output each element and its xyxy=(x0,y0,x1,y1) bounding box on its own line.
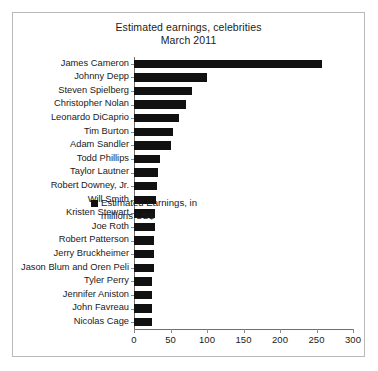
bar xyxy=(134,250,154,258)
bar xyxy=(134,168,158,176)
bar-row: Taylor Lautner xyxy=(134,166,353,180)
category-label: Jennifer Aniston xyxy=(63,288,129,302)
y-axis-tick xyxy=(131,77,134,78)
bar-row: Christopher Nolan xyxy=(134,98,353,112)
bar-row: Jerry Bruckheimer xyxy=(134,247,353,261)
y-axis-tick xyxy=(131,105,134,106)
bar xyxy=(134,264,154,272)
bar-row: Joe Roth xyxy=(134,220,353,234)
category-label: Adam Sandler xyxy=(70,138,129,152)
chart-figure-frame: Estimated earnings, celebrities March 20… xyxy=(12,12,365,357)
bar-row: Tim Burton xyxy=(134,125,353,139)
y-axis-tick xyxy=(131,145,134,146)
legend-swatch-icon xyxy=(91,200,98,207)
y-axis-tick xyxy=(131,281,134,282)
bar-row: Tyler Perry xyxy=(134,275,353,289)
y-axis-tick xyxy=(131,241,134,242)
bar xyxy=(134,100,186,108)
bar xyxy=(134,304,152,312)
x-axis-tick xyxy=(280,329,281,333)
bar xyxy=(134,128,173,136)
category-label: Jason Blum and Oren Peli xyxy=(21,261,129,275)
category-label: Johnny Depp xyxy=(74,70,129,84)
bar xyxy=(134,73,207,81)
x-axis-tick xyxy=(171,329,172,333)
category-label: Jerry Bruckheimer xyxy=(54,247,129,261)
chart-title-line-1: Estimated earnings, celebrities xyxy=(13,21,364,34)
category-label: Tim Burton xyxy=(84,125,129,139)
y-axis-tick xyxy=(131,186,134,187)
category-label: Robert Patterson xyxy=(59,233,129,247)
category-label: Taylor Lautner xyxy=(70,165,129,179)
category-label: John Favreau xyxy=(72,301,129,315)
x-axis-tick-label: 50 xyxy=(165,334,176,345)
category-label: Steven Spielberg xyxy=(58,84,129,98)
bar xyxy=(134,114,179,122)
y-axis-tick xyxy=(131,132,134,133)
y-axis-tick xyxy=(131,118,134,119)
chart-title: Estimated earnings, celebrities March 20… xyxy=(13,21,364,47)
chart-title-line-2: March 2011 xyxy=(13,34,364,47)
bar-row: Nicolas Cage xyxy=(134,315,353,329)
bar xyxy=(134,141,171,149)
x-axis-tick-label: 0 xyxy=(131,334,136,345)
x-axis-tick xyxy=(207,329,208,333)
y-axis-tick xyxy=(131,268,134,269)
y-axis-tick xyxy=(131,91,134,92)
chart-legend: Estimated Earnings, in millions US$ xyxy=(91,197,211,222)
y-axis-tick xyxy=(131,64,134,65)
category-label: Leonardo DiCaprio xyxy=(51,111,129,125)
category-label: James Cameron xyxy=(61,57,129,71)
bar-row: Robert Patterson xyxy=(134,234,353,248)
bar-row: Leonardo DiCaprio xyxy=(134,111,353,125)
category-label: Robert Downey, Jr. xyxy=(51,179,129,193)
x-axis-tick xyxy=(134,329,135,333)
bar-row: John Favreau xyxy=(134,302,353,316)
bar xyxy=(134,182,157,190)
bar xyxy=(134,87,192,95)
x-axis-tick-label: 200 xyxy=(272,334,288,345)
bar xyxy=(134,236,154,244)
x-axis-tick-label: 250 xyxy=(309,334,325,345)
y-axis-tick xyxy=(131,159,134,160)
bar-row: Adam Sandler xyxy=(134,139,353,153)
legend-label-line-1: Estimated Earnings, in xyxy=(101,197,197,208)
bar-row: Robert Downey, Jr. xyxy=(134,179,353,193)
category-label: Nicolas Cage xyxy=(74,315,129,329)
y-axis-tick xyxy=(131,309,134,310)
x-axis-tick-label: 100 xyxy=(199,334,215,345)
x-axis-tick xyxy=(317,329,318,333)
legend-label: Estimated Earnings, in millions US$ xyxy=(101,197,211,222)
category-label: Todd Phillips xyxy=(77,152,129,166)
y-axis-tick xyxy=(131,227,134,228)
bar xyxy=(134,291,152,299)
plot-area: James CameronJohnny DeppSteven Spielberg… xyxy=(134,57,353,329)
bar-row: Jason Blum and Oren Peli xyxy=(134,261,353,275)
bar xyxy=(134,60,322,68)
x-axis-tick-label: 150 xyxy=(236,334,252,345)
x-axis-tick-label: 300 xyxy=(345,334,361,345)
category-label: Christopher Nolan xyxy=(54,97,129,111)
bar-row: Todd Phillips xyxy=(134,152,353,166)
y-axis-tick xyxy=(131,254,134,255)
bar xyxy=(134,318,152,326)
bar-row: Steven Spielberg xyxy=(134,84,353,98)
y-axis-tick xyxy=(131,173,134,174)
y-axis-tick xyxy=(131,295,134,296)
bar-row: Johnny Depp xyxy=(134,71,353,85)
category-label: Tyler Perry xyxy=(84,274,129,288)
bar-row: Jennifer Aniston xyxy=(134,288,353,302)
x-axis-tick xyxy=(353,329,354,333)
y-axis-tick xyxy=(131,322,134,323)
bar xyxy=(134,277,152,285)
bar-row: James Cameron xyxy=(134,57,353,71)
bar xyxy=(134,223,155,231)
bar xyxy=(134,155,160,163)
x-axis-tick xyxy=(244,329,245,333)
legend-label-line-2: millions US$ xyxy=(101,210,154,221)
